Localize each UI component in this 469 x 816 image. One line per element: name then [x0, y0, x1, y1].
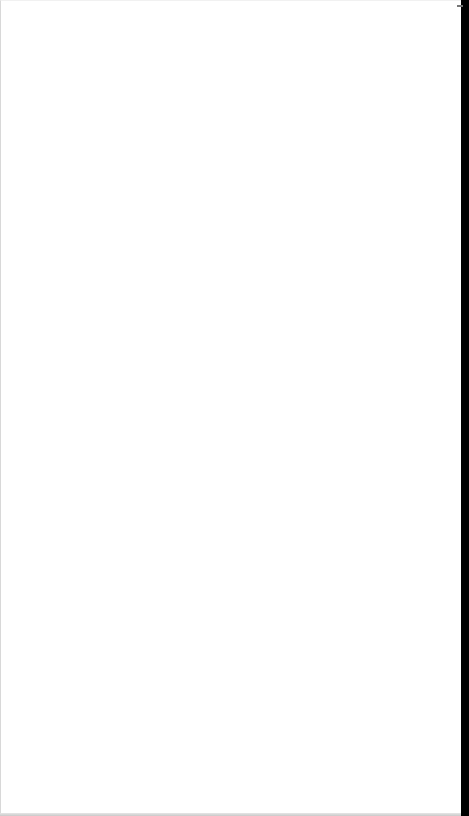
blank-document-page[interactable]: [0, 0, 461, 813]
right-edge-bar: [461, 0, 469, 816]
screen-viewport: [0, 0, 469, 816]
edge-marker: [457, 5, 463, 7]
